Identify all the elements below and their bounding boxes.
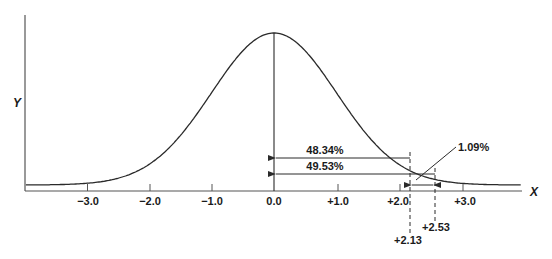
tick-label-pos1: +1.0 [327,195,349,207]
tick-label-neg2: −2.0 [139,195,161,207]
marker-label-253: +2.53 [422,221,450,233]
y-axis-label: Y [13,96,22,110]
x-ticks [88,184,464,191]
area-label-109: 1.09% [458,141,489,153]
tick-label-pos2: +2.0 [387,195,409,207]
x-axis-label: X [529,185,539,199]
area-label-4953: 49.53% [306,160,344,172]
marker-label-213: +2.13 [394,234,422,246]
leader-line-109 [416,147,456,180]
normal-distribution-diagram: −3.0 −2.0 −1.0 0.0 +1.0 +2.0 +3.0 Y X +2… [0,0,552,259]
tick-label-neg1: −1.0 [201,195,223,207]
tick-label-0: 0.0 [266,195,281,207]
area-label-4834: 48.34% [306,144,344,156]
tick-label-neg3: −3.0 [77,195,99,207]
tick-label-pos3: +3.0 [454,195,476,207]
normal-curve [26,33,521,185]
